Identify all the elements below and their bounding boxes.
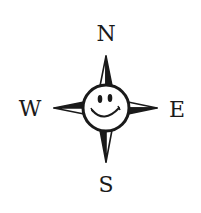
west-label: W [19, 98, 42, 120]
east-label: E [169, 99, 185, 121]
north-label: N [96, 23, 115, 45]
south-label: S [98, 174, 113, 196]
smiley-face-icon [83, 85, 129, 131]
